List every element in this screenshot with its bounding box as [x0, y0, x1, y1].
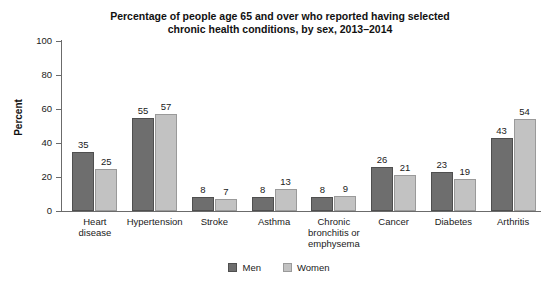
bar-value-label: 13	[271, 176, 301, 187]
bar-value-label: 9	[330, 183, 360, 194]
bar-women[interactable]	[334, 196, 356, 211]
x-category-label: Arthritis	[469, 216, 557, 227]
legend-label-men: Men	[242, 262, 260, 273]
bar-women[interactable]	[275, 189, 297, 211]
bar-value-label: 21	[390, 162, 420, 173]
bar-women[interactable]	[454, 179, 476, 211]
bar-group: 2319	[431, 41, 476, 211]
bar-men[interactable]	[371, 167, 393, 211]
y-tick-label: 20	[26, 171, 52, 182]
y-tick-label: 80	[26, 69, 52, 80]
y-tick-label: 40	[26, 137, 52, 148]
y-tick-label: 0	[26, 205, 52, 216]
x-axis-line	[61, 211, 541, 212]
x-category-label-line: Arthritis	[469, 216, 557, 227]
bar-men[interactable]	[252, 197, 274, 211]
bar-men[interactable]	[311, 197, 333, 211]
bar-men[interactable]	[431, 172, 453, 211]
bar-group: 2621	[371, 41, 416, 211]
bar-men[interactable]	[192, 197, 214, 211]
bar-group: 813	[252, 41, 297, 211]
chart-legend: Men Women	[0, 262, 558, 273]
chart-title-line-2: chronic health conditions, by sex, 2013–…	[90, 23, 470, 36]
bar-group: 3525	[72, 41, 117, 211]
chart-title: Percentage of people age 65 and over who…	[90, 10, 470, 36]
bar-group: 87	[192, 41, 237, 211]
bar-men[interactable]	[491, 138, 513, 211]
plot-area: 352555578781389262123194354	[62, 41, 540, 211]
x-category-label-line: disease	[51, 227, 139, 238]
bar-group: 4354	[491, 41, 536, 211]
legend-item-men[interactable]: Men	[228, 262, 260, 273]
bar-value-label: 57	[151, 101, 181, 112]
legend-label-women: Women	[297, 262, 330, 273]
bar-women[interactable]	[95, 169, 117, 212]
bar-women[interactable]	[394, 175, 416, 211]
bar-value-label: 25	[91, 156, 121, 167]
bar-group: 5557	[132, 41, 177, 211]
x-category-label-line: bronchitis or	[290, 227, 378, 238]
bar-men[interactable]	[132, 118, 154, 212]
bar-value-label: 19	[450, 166, 480, 177]
legend-swatch-men-icon	[228, 263, 237, 272]
bar-value-label: 43	[487, 125, 517, 136]
y-tick-label: 60	[26, 103, 52, 114]
bar-women[interactable]	[155, 114, 177, 211]
y-tick-label: 100	[26, 35, 52, 46]
bar-value-label: 35	[68, 139, 98, 150]
bar-women[interactable]	[514, 119, 536, 211]
legend-item-women[interactable]: Women	[283, 262, 330, 273]
x-category-label-line: emphysema	[290, 238, 378, 249]
bar-women[interactable]	[215, 199, 237, 211]
bar-value-label: 54	[510, 106, 540, 117]
y-axis-ticks: 020406080100	[0, 0, 52, 284]
chart-title-line-1: Percentage of people age 65 and over who…	[90, 10, 470, 23]
bar-group: 89	[311, 41, 356, 211]
bar-value-label: 7	[211, 186, 241, 197]
legend-swatch-women-icon	[283, 263, 292, 272]
